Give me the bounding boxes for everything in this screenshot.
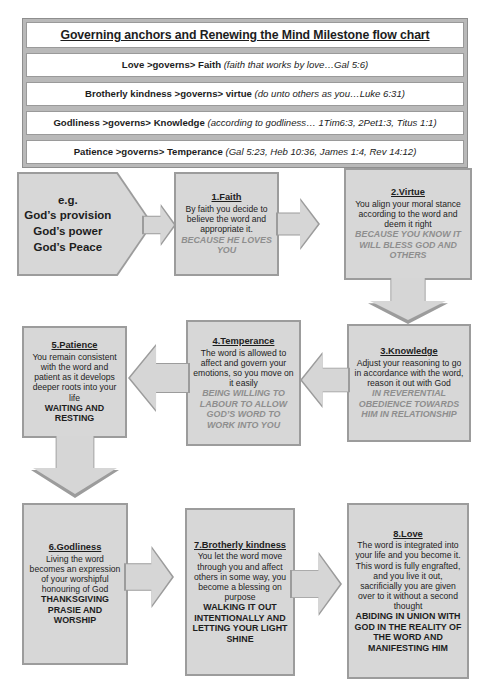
arrow-knowledge-to-temperance — [302, 354, 348, 406]
node-5-emphasis: WAITING AND RESTING — [28, 403, 121, 424]
start-line-1: God’s provision — [19, 208, 117, 224]
node-2-virtue: 2.Virtue You align your moral stance acc… — [344, 168, 472, 280]
node-6-body: Living the word becomes an expression of… — [28, 554, 122, 595]
anchor-pair-patience: Patience >governs> Temperance — [74, 146, 226, 157]
node-1-body: By faith you decide to believe the word … — [180, 204, 273, 234]
node-3-emphasis: IN REVERENTIAL OBEDIENCE TOWARDS HIM IN … — [353, 388, 465, 420]
node-7-title: 7.Brotherly kindness — [191, 540, 289, 551]
node-7-brotherly-kindness: 7.Brotherly kindness You let the word mo… — [185, 508, 295, 676]
page-title: Governing anchors and Renewing the Mind … — [60, 28, 429, 42]
anchor-row-love-faith: Love >governs> Faith (faith that works b… — [26, 53, 464, 77]
node-1-faith: 1.Faith By faith you decide to believe t… — [174, 172, 279, 276]
anchor-row-brotherly-virtue: Brotherly kindness >governs> virtue (do … — [26, 82, 464, 106]
node-4-temperance: 4.Temperance The word is allowed to affe… — [186, 320, 301, 446]
node-8-love: 8.Love The word is integrated into your … — [347, 503, 469, 679]
node-2-body: You align your moral stance according to… — [350, 199, 466, 229]
anchor-row-godliness-knowledge: Godliness >governs> Knowledge (according… — [26, 111, 464, 135]
anchor-row-patience-temperance: Patience >governs> Temperance (Gal 5:23,… — [26, 140, 464, 164]
node-1-title: 1.Faith — [180, 192, 273, 203]
start-node-eg: e.g. God’s provision God’s power God’s P… — [19, 174, 151, 274]
node-2-title: 2.Virtue — [350, 187, 466, 198]
anchor-ref-brotherly: (do unto others as you…Luke 6:31) — [255, 88, 405, 99]
node-7-emphasis: WALKING IT OUT INTENTIONALLY AND LETTING… — [191, 602, 289, 644]
node-5-patience: 5.Patience You remain consistent with th… — [22, 326, 127, 438]
start-line-2: God’s power — [19, 224, 117, 240]
anchor-ref-godliness: (according to godliness… 1Tim6:3, 2Pet1:… — [207, 117, 436, 128]
governing-anchors-table: Governing anchors and Renewing the Mind … — [22, 18, 468, 168]
node-1-emphasis: BECAUSE HE LOVES YOU — [180, 235, 273, 256]
node-4-body: The word is allowed to affect and govern… — [192, 348, 295, 389]
node-6-emphasis: THANKSGIVING PRASIE AND WORSHIP — [28, 594, 122, 626]
arrow-start-to-faith — [144, 206, 174, 244]
node-4-emphasis: BEING WILLING TO LABOUR TO ALLOW GOD’S W… — [192, 388, 295, 430]
arrow-temperance-to-patience — [130, 346, 188, 410]
anchor-pair-godliness: Godliness >governs> Knowledge — [53, 117, 207, 128]
node-6-title: 6.Godliness — [28, 542, 122, 553]
arrow-faith-to-virtue — [278, 200, 318, 248]
node-5-body: You remain consistent with the word and … — [28, 352, 121, 403]
node-5-title: 5.Patience — [28, 340, 121, 351]
anchor-pair-brotherly: Brotherly kindness >governs> virtue — [85, 88, 255, 99]
arrow-virtue-to-knowledge — [370, 278, 446, 320]
node-2-emphasis: BECAUSE YOU KNOW IT WILL BLESS GOD AND O… — [350, 229, 466, 261]
anchor-ref-love: (faith that works by love…Gal 5:6) — [224, 59, 369, 70]
start-line-0: e.g. — [19, 193, 117, 209]
node-8-body: The word is integrated into your life an… — [353, 540, 463, 611]
node-4-title: 4.Temperance — [192, 336, 295, 347]
start-line-3: God’s Peace — [19, 240, 117, 256]
node-6-godliness: 6.Godliness Living the word becomes an e… — [22, 503, 128, 665]
anchor-pair-love: Love >governs> Faith — [122, 59, 224, 70]
anchor-ref-patience: (Gal 5:23, Heb 10:36, James 1:4, Rev 14:… — [225, 146, 416, 157]
flowchart-canvas: Governing anchors and Renewing the Mind … — [0, 0, 490, 697]
arrow-godliness-to-brotherly — [126, 548, 172, 606]
node-7-body: You let the word move through you and af… — [191, 551, 289, 602]
node-3-body: Adjust your reasoning to go in accordanc… — [353, 358, 465, 388]
arrow-patience-to-godliness — [33, 436, 117, 494]
node-3-title: 3.Knowledge — [353, 346, 465, 357]
node-8-title: 8.Love — [353, 529, 463, 540]
arrow-brotherly-to-love — [292, 554, 340, 614]
node-8-emphasis: ABIDING IN UNION WITH GOD IN THE REALITY… — [353, 611, 463, 653]
chart-title-row: Governing anchors and Renewing the Mind … — [26, 22, 464, 48]
node-3-knowledge: 3.Knowledge Adjust your reasoning to go … — [347, 324, 471, 442]
